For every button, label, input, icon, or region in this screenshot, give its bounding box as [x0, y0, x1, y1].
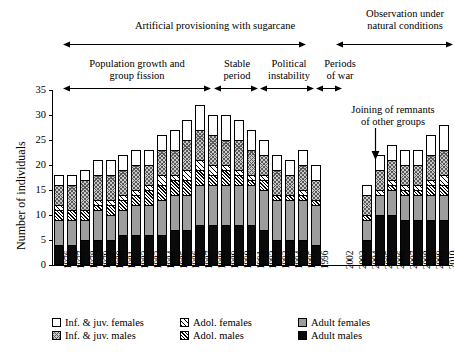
legend-item-adult_males[interactable]: Adult males [298, 329, 418, 342]
bar-1992[interactable] [259, 90, 269, 265]
bar-segment-adol_females [400, 185, 410, 190]
x-tick-label-1979: 1979 [102, 251, 112, 269]
x-tick-label-1978: 1978 [89, 251, 99, 269]
bar-segment-adol_males [362, 215, 372, 220]
bar-segment-adol_females [387, 180, 397, 185]
bar-segment-adult_females [67, 220, 77, 245]
legend-item-adol_females[interactable]: Adol. females [180, 316, 298, 329]
y-tick-mark [49, 215, 52, 216]
x-tick-label-2007: 2007 [409, 251, 419, 269]
bar-segment-adult_females [182, 195, 192, 230]
bar-1982[interactable] [131, 90, 141, 265]
bar-segment-adol_females [144, 185, 154, 190]
bar-segment-inf_females [362, 185, 372, 195]
x-tick-label-1984: 1984 [166, 251, 176, 269]
bar-segment-inf_females [67, 175, 77, 185]
bar-1979[interactable] [93, 90, 103, 265]
bar-1989[interactable] [221, 90, 231, 265]
bar-segment-adult_females [221, 185, 231, 225]
legend-label: Adol. females [193, 317, 252, 328]
bar-segment-adol_males [413, 190, 423, 195]
bar-segment-adol_males [387, 185, 397, 190]
bar-segment-adol_males [247, 180, 257, 185]
y-tick-mark [49, 265, 52, 266]
bar-1977[interactable] [67, 90, 77, 265]
bar-segment-adol_females [195, 160, 205, 170]
x-tick-label-2010: 2010 [448, 251, 454, 269]
bar-1995[interactable] [298, 90, 308, 265]
bar-1988[interactable] [208, 90, 218, 265]
bar-segment-adult_females [311, 205, 321, 245]
bar-1994[interactable] [285, 90, 295, 265]
legend-label: Adult females [311, 317, 370, 328]
chart-figure: Artificial provisioning with sugarcane O… [0, 0, 454, 357]
bar-segment-adult_females [387, 190, 397, 215]
bar-segment-adol_females [170, 175, 180, 180]
bar-segment-inf_females [106, 160, 116, 175]
legend-item-adult_females[interactable]: Adult females [298, 316, 418, 329]
bar-segment-adult_females [157, 200, 167, 235]
x-tick-label-1996: 1996 [320, 251, 330, 269]
bar-1976[interactable] [54, 90, 64, 265]
bar-1987[interactable] [195, 90, 205, 265]
legend-swatch-icon [52, 331, 61, 340]
x-tick-label-1988: 1988 [217, 251, 227, 269]
bar-1983[interactable] [144, 90, 154, 265]
x-tick-label-1991: 1991 [256, 251, 266, 269]
bar-segment-inf_males [54, 185, 64, 205]
x-tick-label-1985: 1985 [179, 251, 189, 269]
bar-segment-inf_females [285, 160, 295, 175]
bar-1981[interactable] [118, 90, 128, 265]
bar-segment-adol_males [311, 200, 321, 205]
bar-segment-adol_females [118, 195, 128, 200]
bar-segment-adol_males [80, 210, 90, 220]
bar-segment-adol_females [106, 200, 116, 205]
bar-segment-adol_females [247, 175, 257, 180]
legend-item-adol_males[interactable]: Adol. males [180, 329, 298, 342]
bar-1986[interactable] [182, 90, 192, 265]
bar-1985[interactable] [170, 90, 180, 265]
period-band-label-stable: Stable period [213, 58, 261, 81]
y-tick-label: 15 [26, 184, 46, 195]
bar-segment-adult_females [80, 220, 90, 240]
bar-1984[interactable] [157, 90, 167, 265]
bar-segment-inf_females [247, 130, 257, 150]
legend-item-inf_males[interactable]: Inf. & juv. males [52, 329, 180, 342]
bar-segment-inf_males [362, 195, 372, 215]
bar-1980[interactable] [106, 90, 116, 265]
y-tick-mark [49, 190, 52, 191]
legend-item-inf_females[interactable]: Inf. & juv. females [52, 316, 180, 329]
bar-segment-inf_females [131, 150, 141, 165]
bar-1996[interactable] [311, 90, 321, 265]
bar-segment-adult_females [131, 205, 141, 235]
bar-segment-inf_males [208, 135, 218, 165]
y-tick-mark [49, 90, 52, 91]
bar-1990[interactable] [234, 90, 244, 265]
bar-segment-inf_females [426, 135, 436, 155]
x-tick-label-1993: 1993 [281, 251, 291, 269]
legend: Inf. & juv. femalesAdol. femalesAdult fe… [52, 316, 442, 342]
period-band-arrow-natural [336, 40, 453, 49]
bar-segment-adult_females [413, 195, 423, 220]
bar-1991[interactable] [247, 90, 257, 265]
period-band-label-growth: Population growth and group fission [62, 58, 212, 81]
bar-segment-inf_males [182, 140, 192, 170]
bar-segment-inf_males [80, 180, 90, 210]
period-band-arrow-provisioning [63, 40, 306, 49]
bar-1993[interactable] [272, 90, 282, 265]
bar-segment-inf_females [400, 150, 410, 165]
y-tick-label: 5 [26, 234, 46, 245]
bar-segment-adol_males [106, 205, 116, 215]
bar-1978[interactable] [80, 90, 90, 265]
bar-segment-adult_females [170, 195, 180, 230]
bar-segment-adol_males [170, 180, 180, 195]
x-tick-label-1995: 1995 [307, 251, 317, 269]
bar-segment-inf_males [144, 165, 154, 185]
x-tick-label-1982: 1982 [140, 251, 150, 269]
bar-segment-adult_females [144, 205, 154, 235]
bar-segment-inf_females [157, 135, 167, 150]
bar-segment-adult_females [118, 210, 128, 235]
y-tick-label: 35 [26, 84, 46, 95]
bar-segment-adol_females [375, 190, 385, 195]
bar-segment-inf_males [234, 140, 244, 170]
